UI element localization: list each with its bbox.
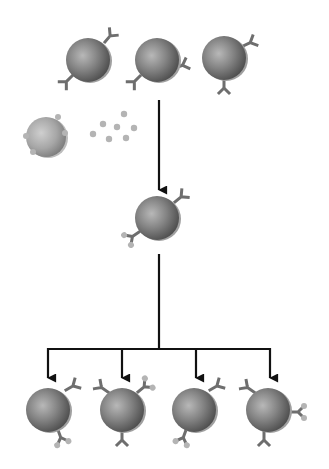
antigen-particles <box>90 111 137 142</box>
top-cell-2 <box>127 38 189 89</box>
clonal-selection-diagram <box>0 0 329 469</box>
activated-cell <box>120 190 188 249</box>
top-cell-1 <box>59 29 117 89</box>
top-cell-3 <box>202 36 257 93</box>
daughter-cell-1 <box>26 379 80 449</box>
daughter-cell-2 <box>94 374 156 445</box>
daughter-cell-3 <box>172 379 224 449</box>
daughter-cell-4 <box>240 380 307 445</box>
antigen-cell <box>23 114 68 158</box>
proliferation-arrows <box>47 254 271 378</box>
